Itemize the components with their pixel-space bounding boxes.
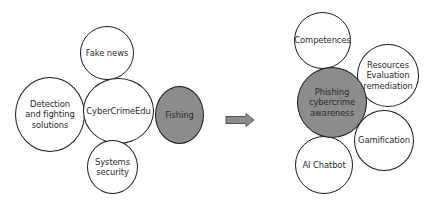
- node-label: Systems security: [95, 157, 130, 178]
- node-systems-security: Systems security: [87, 140, 138, 194]
- node-competences: Competences: [294, 12, 351, 69]
- right-arrow-icon: [225, 113, 255, 127]
- node-phishing-awareness: Phishing cybercrime awareness: [297, 67, 367, 138]
- node-cybercrimeedu: CyberCrimeEdu: [83, 78, 154, 144]
- node-fake-news: Fake news: [80, 26, 134, 80]
- node-label: Resources Evaluation remediation: [363, 60, 412, 92]
- node-label: Phishing cybercrime awareness: [309, 87, 355, 119]
- node-label: Fishing: [165, 110, 193, 121]
- node-label: CyberCrimeEdu: [86, 106, 150, 117]
- node-ai-chatbot: AI Chatbot: [295, 136, 353, 194]
- node-label: Fake news: [86, 48, 128, 59]
- node-label: Detection and fighting solutions: [25, 99, 74, 131]
- node-label: AI Chatbot: [302, 160, 345, 171]
- node-detection: Detection and fighting solutions: [15, 77, 85, 152]
- node-label: Gamification: [358, 135, 410, 146]
- node-gamification: Gamification: [354, 110, 414, 171]
- node-label: Competences: [294, 35, 350, 46]
- node-fishing: Fishing: [155, 86, 204, 144]
